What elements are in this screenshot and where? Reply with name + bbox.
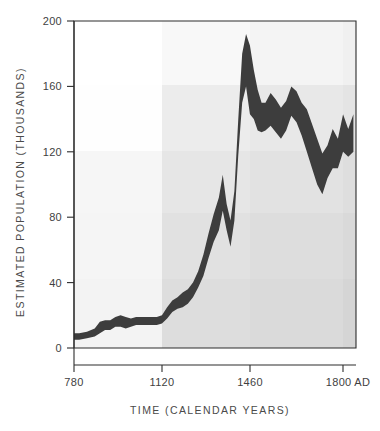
y-tick-label-200: 200 — [43, 15, 62, 27]
x-axis-ticks — [74, 365, 343, 372]
x-axis-title: TIME (CALENDAR YEARS) — [130, 404, 290, 416]
background-band-group — [74, 21, 356, 348]
x-tick-label-1460: 1460 — [237, 376, 263, 388]
left-top-white-column — [74, 21, 162, 151]
x-tick-label-1800: 1800 AD — [326, 376, 370, 388]
x-axis-tick-labels: 780 1120 1460 1800 AD — [64, 376, 370, 388]
y-tick-label-120: 120 — [43, 146, 62, 158]
y-axis-title: ESTIMATED POPULATION (THOUSANDS) — [14, 67, 26, 317]
x-tick-label-1120: 1120 — [150, 376, 175, 388]
population-area-chart: 200 160 120 80 40 0 780 1120 1460 1800 A… — [0, 0, 380, 431]
y-tick-label-40: 40 — [49, 277, 62, 289]
chart-figure: 200 160 120 80 40 0 780 1120 1460 1800 A… — [0, 0, 380, 431]
y-tick-label-80: 80 — [49, 211, 62, 223]
y-axis-ticks — [67, 21, 74, 348]
y-axis-tick-labels: 200 160 120 80 40 0 — [43, 15, 62, 354]
x-tick-label-780: 780 — [64, 376, 83, 388]
y-tick-label-160: 160 — [43, 80, 62, 92]
y-tick-label-0: 0 — [56, 342, 62, 354]
